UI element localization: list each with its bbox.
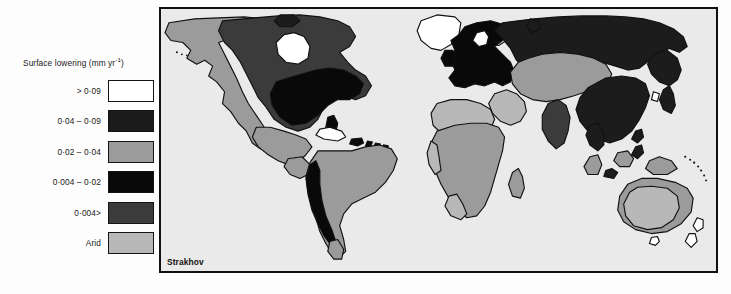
legend-label-gt-0-09: > 0·09 xyxy=(77,86,108,96)
legend-label-arid: Arid xyxy=(86,238,108,248)
map-legend: Surface lowering (mm yr-1) > 0·090·04 – … xyxy=(18,58,154,260)
legend-swatch-arid xyxy=(108,232,154,254)
legend-row-gt-0-09: > 0·09 xyxy=(18,77,154,104)
legend-label-0-004-to-0-02: 0·004 – 0·02 xyxy=(53,177,108,187)
legend-label-0-04-to-0-09: 0·04 – 0·09 xyxy=(57,116,108,126)
legend-swatch-0-04-to-0-09 xyxy=(108,110,154,132)
legend-swatch-lt-0-004 xyxy=(108,202,154,224)
figure-root: Surface lowering (mm yr-1) > 0·090·04 – … xyxy=(0,0,731,294)
world-map-graphic xyxy=(161,9,716,271)
legend-row-lt-0-004: 0·004> xyxy=(18,199,154,226)
legend-label-0-02-to-0-04: 0·02 – 0·04 xyxy=(57,147,108,157)
region-korea-notch xyxy=(651,92,659,102)
legend-swatch-0-004-to-0-02 xyxy=(108,171,154,193)
legend-swatch-gt-0-09 xyxy=(108,80,154,102)
legend-swatch-0-02-to-0-04 xyxy=(108,141,154,163)
legend-title: Surface lowering (mm yr-1) xyxy=(23,58,154,68)
legend-items: > 0·090·04 – 0·090·02 – 0·040·004 – 0·02… xyxy=(18,77,154,257)
legend-label-lt-0-004: 0·004> xyxy=(74,208,108,218)
legend-row-0-04-to-0-09: 0·04 – 0·09 xyxy=(18,108,154,135)
legend-row-arid: Arid xyxy=(18,230,154,257)
legend-row-0-02-to-0-04: 0·02 – 0·04 xyxy=(18,138,154,165)
region-british-isles xyxy=(441,50,457,66)
map-credit-label: Strakhov xyxy=(167,257,204,267)
map-frame: Strakhov xyxy=(159,7,718,273)
legend-row-0-004-to-0-02: 0·004 – 0·02 xyxy=(18,169,154,196)
